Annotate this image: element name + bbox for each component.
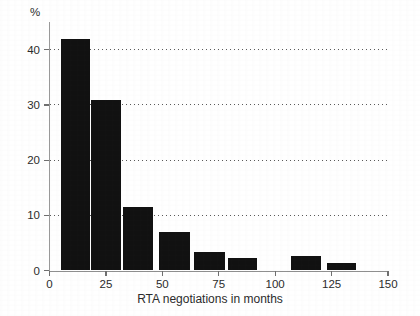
plot-area: % 010203040 0255075100125150 RTA negotia…: [0, 0, 420, 316]
bar-2[interactable]: [91, 100, 121, 270]
x-tick-125: [331, 271, 332, 276]
y-tick-label-10: 10: [14, 209, 40, 221]
y-tick-label-40: 40: [14, 44, 40, 56]
y-tick-40: [44, 49, 49, 50]
y-tick-10: [44, 215, 49, 216]
bar-3[interactable]: [123, 207, 153, 270]
bar-6[interactable]: [228, 258, 257, 271]
x-tick-50: [162, 271, 163, 276]
x-tick-25: [105, 271, 106, 276]
y-tick-20: [44, 160, 49, 161]
x-tick-150: [387, 271, 388, 276]
y-tick-label-20: 20: [14, 154, 40, 166]
x-tick-label-25: 25: [86, 278, 126, 291]
bar-5[interactable]: [194, 252, 224, 270]
bar-1[interactable]: [61, 39, 90, 271]
x-tick-label-50: 50: [142, 278, 182, 291]
x-tick-75: [218, 271, 219, 276]
y-tick-label-0: 0: [14, 265, 40, 277]
bar-8[interactable]: [327, 263, 356, 270]
bar-7[interactable]: [291, 256, 321, 271]
x-tick-label-150: 150: [368, 278, 408, 291]
y-tick-30: [44, 104, 49, 105]
bar-4[interactable]: [159, 232, 189, 271]
y-axis-unit-label: %: [30, 6, 40, 19]
x-axis-title: RTA negotiations in months: [0, 292, 420, 306]
x-tick-label-75: 75: [199, 278, 239, 291]
gridline-40: [50, 49, 388, 50]
y-axis-line: [49, 22, 50, 271]
x-tick-label-125: 125: [312, 278, 352, 291]
x-tick-label-100: 100: [255, 278, 295, 291]
x-tick-0: [49, 271, 50, 276]
x-tick-label-0: 0: [30, 278, 70, 291]
x-tick-100: [275, 271, 276, 276]
bar-chart: % 010203040 0255075100125150 RTA negotia…: [0, 0, 420, 316]
y-tick-label-30: 30: [14, 99, 40, 111]
